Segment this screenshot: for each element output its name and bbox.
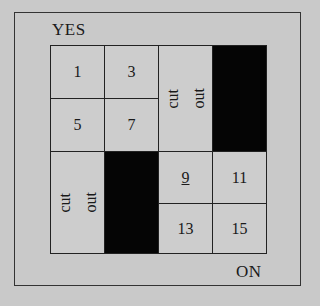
filled-block-bottom: [104, 151, 159, 254]
cell-9: 9: [158, 151, 213, 204]
cutout-bottom-line2: out: [78, 192, 104, 212]
cutout-top-line1: cut: [160, 89, 186, 109]
cell-7: 7: [104, 98, 159, 152]
label-on: ON: [236, 262, 262, 282]
cell-1: 1: [50, 45, 105, 99]
cell-5: 5: [50, 98, 105, 152]
cell-15: 15: [212, 203, 267, 254]
cutout-top-line2: out: [186, 88, 212, 108]
cell-9-label: 9: [182, 169, 190, 187]
cell-11: 11: [212, 151, 267, 204]
filled-block-top: [212, 45, 267, 152]
cutout-top: cut out: [158, 45, 213, 152]
cell-3: 3: [104, 45, 159, 99]
cell-13: 13: [158, 203, 213, 254]
label-yes: YES: [52, 20, 86, 40]
cutout-bottom-line1: cut: [52, 193, 78, 213]
cutout-bottom: cut out: [50, 151, 105, 254]
